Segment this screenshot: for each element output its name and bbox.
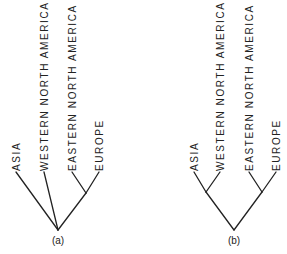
branch-europe bbox=[262, 172, 276, 192]
branch-eastern-north-america bbox=[249, 172, 262, 192]
panel-caption-b: (b) bbox=[228, 235, 240, 246]
taxon-label-western-north-america: WESTERN NORTH AMERICA bbox=[215, 1, 226, 171]
panel-caption-a: (a) bbox=[52, 235, 64, 246]
taxon-label-eastern-north-america: EASTERN NORTH AMERICA bbox=[67, 4, 78, 171]
taxon-label-europe: EUROPE bbox=[94, 119, 105, 171]
branch-east-europe-clade bbox=[58, 193, 86, 230]
taxon-label-europe: EUROPE bbox=[271, 119, 282, 171]
branch-eastern-north-america bbox=[72, 172, 86, 193]
cladogram-figure: ASIA WESTERN NORTH AMERICA EASTERN NORTH… bbox=[0, 0, 287, 254]
branch-east-europe-clade bbox=[234, 192, 262, 230]
cladogram-b: ASIA WESTERN NORTH AMERICA EASTERN NORTH… bbox=[189, 1, 282, 246]
branch-western-north-america bbox=[206, 172, 220, 192]
branch-asia-wna-clade bbox=[206, 192, 234, 230]
taxon-label-western-north-america: WESTERN NORTH AMERICA bbox=[39, 1, 50, 171]
taxon-label-asia: ASIA bbox=[11, 142, 22, 171]
branch-asia bbox=[16, 172, 58, 230]
taxon-label-eastern-north-america: EASTERN NORTH AMERICA bbox=[244, 4, 255, 171]
branch-europe bbox=[86, 172, 99, 193]
branch-asia bbox=[194, 172, 206, 192]
taxon-label-asia: ASIA bbox=[189, 142, 200, 171]
cladogram-a: ASIA WESTERN NORTH AMERICA EASTERN NORTH… bbox=[11, 1, 105, 246]
